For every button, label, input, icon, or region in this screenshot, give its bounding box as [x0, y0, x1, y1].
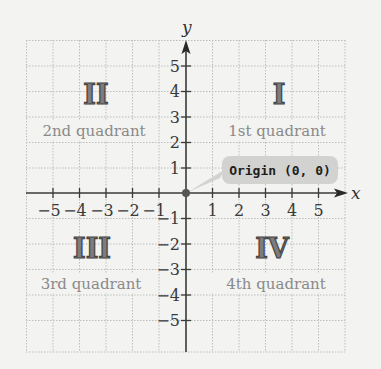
y-tick-label: 1 [170, 159, 180, 178]
x-tick-label: 5 [313, 201, 323, 220]
origin-callout-text: Origin (0, 0) [229, 163, 331, 178]
y-tick-label: 3 [170, 108, 180, 127]
y-tick-label: −3 [156, 260, 180, 279]
x-tick-label: 1 [207, 201, 217, 220]
x-axis-label: x [351, 183, 361, 203]
x-tick-labels: −5 −4 −3 −2 −1 1 2 3 4 5 [37, 201, 323, 220]
x-tick-label: −2 [116, 201, 140, 220]
quadrant-numeral-IV: IV [255, 233, 290, 264]
y-tick-label: 5 [170, 57, 180, 76]
quadrant-label-1st: 1st quadrant [228, 122, 326, 140]
y-axis-label: y [181, 17, 192, 37]
quadrant-numeral-III: III [73, 233, 111, 264]
quadrant-numeral-I: I [273, 79, 286, 110]
quadrant-label-2nd: 2nd quadrant [42, 122, 145, 140]
y-tick-label: 4 [170, 82, 180, 101]
x-tick-label: −4 [63, 201, 87, 220]
quadrant-numeral-II: II [83, 79, 108, 110]
y-tick-label: −2 [156, 235, 180, 254]
y-tick-label: −5 [156, 311, 180, 330]
origin-point [182, 189, 190, 197]
x-tick-label: 3 [260, 201, 270, 220]
y-tick-label: −4 [156, 286, 180, 305]
quadrant-label-3rd: 3rd quadrant [41, 275, 142, 293]
y-tick-label: −1 [156, 209, 180, 228]
x-tick-label: −3 [90, 201, 114, 220]
y-tick-label: 2 [170, 133, 180, 152]
x-tick-label: 4 [287, 201, 297, 220]
x-tick-label: 2 [234, 201, 244, 220]
coordinate-plane-diagram: II I III IV 2nd quadrant 1st quadrant 3r… [0, 0, 381, 369]
quadrant-label-4th: 4th quadrant [226, 275, 326, 293]
origin-callout: Origin (0, 0) [188, 156, 338, 192]
x-tick-label: −5 [37, 201, 61, 220]
